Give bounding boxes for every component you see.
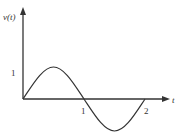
x-tick-label-1: 1 — [81, 106, 86, 116]
y-tick-label-1: 1 — [11, 68, 16, 78]
y-axis-label: v(t) — [3, 12, 16, 22]
x-axis-arrow-icon — [162, 96, 170, 102]
x-axis-label: t — [172, 95, 175, 105]
sine-wave-diagram: v(t) t 1 1 2 — [0, 0, 182, 138]
y-axis-arrow-icon — [20, 7, 26, 15]
x-tick-label-2: 2 — [144, 106, 149, 116]
